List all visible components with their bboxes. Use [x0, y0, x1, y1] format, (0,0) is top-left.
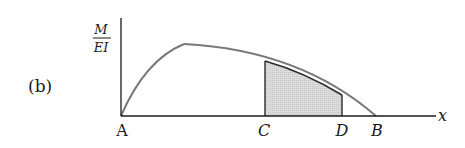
curve-rising — [121, 44, 184, 116]
point-label-b: B — [370, 121, 383, 140]
y-axis-label-denominator: EI — [93, 40, 109, 55]
point-label-d: D — [335, 121, 349, 140]
moment-area-diagram: M EI (b) A C D B x — [0, 0, 465, 148]
point-label-c: C — [258, 121, 270, 140]
panel-label: (b) — [28, 76, 52, 96]
point-label-a: A — [115, 121, 128, 140]
x-axis-label: x — [438, 106, 447, 125]
y-axis-label-numerator: M — [93, 22, 108, 37]
